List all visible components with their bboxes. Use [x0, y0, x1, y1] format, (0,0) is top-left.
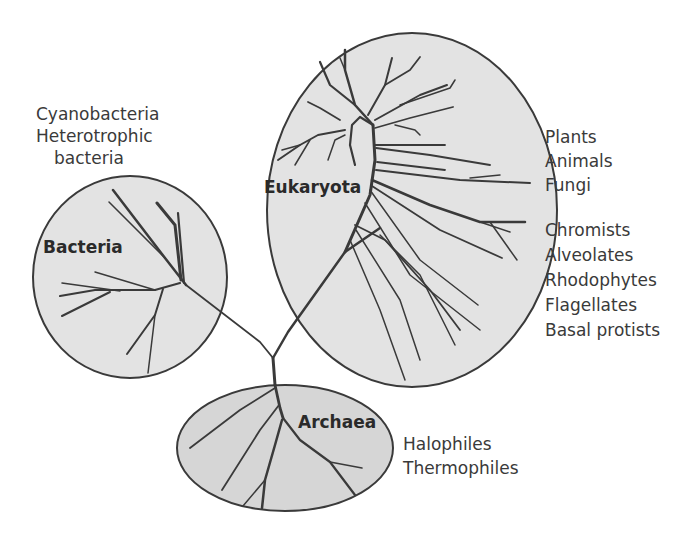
eukaryota-label: Eukaryota	[264, 177, 361, 197]
group-chromists: Chromists	[545, 219, 630, 241]
group-cyanobacteria: Cyanobacteria	[36, 103, 159, 125]
group-flagellates: Flagellates	[545, 294, 637, 316]
group-halophiles: Halophiles	[403, 433, 492, 455]
group-alveolates: Alveolates	[545, 244, 633, 266]
group-fungi: Fungi	[545, 174, 591, 196]
archaea-label: Archaea	[298, 412, 376, 432]
group-bacteria: bacteria	[54, 147, 124, 169]
group-thermophiles: Thermophiles	[403, 457, 519, 479]
group-plants: Plants	[545, 126, 597, 148]
bacteria-label: Bacteria	[43, 237, 123, 257]
bacteria-region	[33, 176, 227, 378]
group-heterotrophic: Heterotrophic	[36, 125, 153, 147]
group-basal-protists: Basal protists	[545, 319, 660, 341]
group-animals: Animals	[545, 150, 613, 172]
archaea-region	[177, 385, 393, 511]
group-rhodophytes: Rhodophytes	[545, 269, 657, 291]
